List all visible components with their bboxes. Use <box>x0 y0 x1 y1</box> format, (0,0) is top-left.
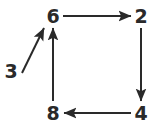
diagram-canvas: 6 2 8 4 3 <box>0 0 159 129</box>
node-label-6: 6 <box>46 7 59 26</box>
node-label-3: 3 <box>4 62 17 81</box>
node-label-4: 4 <box>134 104 147 123</box>
edge-3-to-6 <box>22 28 44 73</box>
node-label-8: 8 <box>46 104 59 123</box>
node-label-2: 2 <box>134 7 147 26</box>
